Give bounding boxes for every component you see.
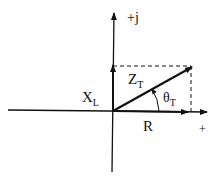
impedance-phasor-diagram: +j + ZT XL θT R	[0, 0, 214, 178]
zt-label: ZT	[128, 71, 143, 90]
r-vector	[113, 111, 188, 112]
imaginary-axis-label: +j	[127, 10, 139, 25]
angle-label: θT	[163, 90, 176, 108]
r-label: R	[143, 118, 153, 134]
real-axis-label: +	[199, 122, 206, 136]
angle-arc	[152, 89, 159, 111]
xl-label: XL	[82, 89, 99, 108]
